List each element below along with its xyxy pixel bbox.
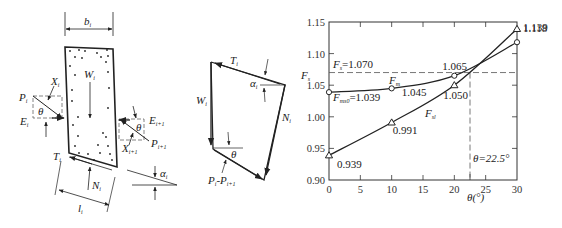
circle-marker [514,40,519,45]
force-polygon [211,62,285,180]
theta-annotation: θ=22.5° [473,152,510,164]
fb-w-label: Wi [196,94,207,107]
slice-diagram: bi Wi Pi Xi Ei θ [18,12,177,215]
x-tick-label: 20 [449,184,460,195]
fb-n-label: Ni [281,111,291,124]
y-tick-label: 1.15 [307,17,325,28]
fb-theta-label: θ [231,148,237,160]
right-x-arrow [129,133,133,145]
right-e-tick-arrow [133,106,136,118]
point-label: 1.050 [443,89,468,101]
triangle-marker [513,25,520,31]
left-e-label: Ei [19,115,29,128]
point-label: 1.045 [402,86,427,98]
x-tick-label: 30 [512,184,523,195]
fms0-annotation: Fms0=1.039 [332,91,381,104]
right-p-arrow [121,120,149,141]
x-tick-label: 0 [326,184,331,195]
point-label: 0.991 [393,124,418,136]
n-vector [266,85,285,175]
y-tick-label: 0.90 [307,175,325,186]
y-tick-label: 0.95 [307,143,325,154]
left-theta-label: θ [38,105,44,117]
figure-canvas: bi Wi Pi Xi Ei θ [0,0,562,228]
p-diff-pointer [222,160,226,173]
circle-marker [326,90,331,95]
y-tick-label: 1.00 [307,112,325,123]
base-shear-label: Ti [53,150,61,163]
force-polygon-diagram: αi θ Ti Wi Ni Pi-Pi+1 [196,54,291,187]
left-p-label: Pi [18,91,28,104]
normal-label: Ni [91,179,101,192]
triangle-marker [325,152,332,158]
x-axis-label: θ(°) [467,191,484,204]
right-e-label: Ei+1 [148,114,164,127]
fsl-series-label: Fsl [424,107,436,120]
fs-annotation: Fs=1.070 [332,58,374,71]
point-label: 1.139 [523,21,548,33]
normal-arrow [88,167,90,190]
t-vector [215,63,280,84]
x-tick-label: 10 [386,184,397,195]
right-p-label: Pi+1 [150,137,166,150]
alpha-arrow-b [264,88,265,102]
fb-alpha-label: αi [250,77,258,90]
fs-theta-chart: 0510152025300.900.951.001.051.101.15 Fs … [300,17,548,204]
fm-series-label: Fm [388,74,401,87]
alpha-arrow-a [265,59,268,75]
width-label: bi [84,15,92,28]
length-dimension-arrow [59,190,109,205]
theta-arrow [228,132,229,145]
left-x-arrow [48,86,54,100]
circle-marker [452,73,457,78]
length-label: li [78,202,83,215]
x-tick-label: 5 [358,184,363,195]
y-axis-label: Fs [300,69,311,82]
right-theta-label: θ [136,121,142,133]
soil-slice [65,47,117,167]
alpha-label: αi [160,167,168,180]
y-tick-label: 1.10 [307,49,325,60]
circle-marker [389,86,394,91]
length-tick-right [107,177,115,212]
fb-p-diff-label: Pi-Pi+1 [207,174,236,187]
point-label: 0.939 [337,158,362,170]
slope-line [127,170,177,185]
point-label: 1.065 [442,60,467,72]
left-x-label: Xi [50,75,60,88]
length-tick-left [55,161,61,195]
x-tick-label: 15 [418,184,429,195]
fb-t-label: Ti [230,54,238,67]
